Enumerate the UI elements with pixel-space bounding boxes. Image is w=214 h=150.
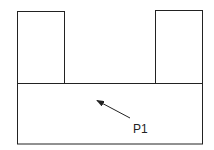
- right-tower: [156, 11, 203, 84]
- pointer-arrow: [97, 101, 130, 119]
- left-tower: [18, 12, 65, 84]
- base-block: [18, 84, 203, 145]
- u-shape-diagram: P1: [0, 0, 214, 150]
- point-label: P1: [133, 122, 148, 136]
